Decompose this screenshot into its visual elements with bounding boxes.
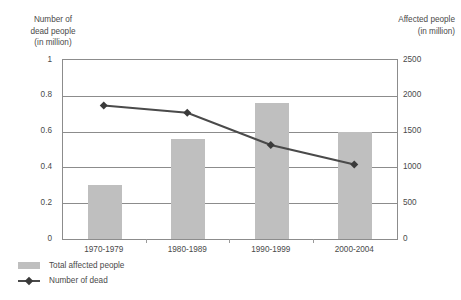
legend-item-number-of-dead: Number of dead [18, 273, 124, 288]
bar-1990-1999 [255, 103, 289, 239]
x-axis-label-1970-1979: 1970-1979 [62, 245, 146, 255]
left-axis-tick-label: 1 [0, 55, 52, 64]
bar-1980-1989 [171, 139, 205, 239]
x-axis-tick-mark [146, 239, 147, 243]
left-axis-tick-label: 0 [0, 234, 52, 243]
x-axis-tick-mark [313, 239, 314, 243]
left-axis-tick-label: 0.8 [0, 90, 52, 99]
left-axis-title-line1: Number of [14, 14, 92, 26]
right-axis-tick-label: 2000 [403, 90, 461, 99]
x-axis-label-2000-2004: 2000-2004 [312, 245, 396, 255]
left-axis-title: Number of dead people (in million) [14, 14, 92, 49]
x-axis-label-1990-1999: 1990-1999 [229, 245, 313, 255]
bar-swatch-icon [18, 262, 40, 269]
left-axis-title-line2: dead people [14, 26, 92, 38]
left-axis-tick-label: 0.4 [0, 162, 52, 171]
chart-legend: Total affected people Number of dead [18, 258, 124, 288]
left-axis-title-line3: (in million) [14, 37, 92, 49]
right-axis-title: Affected people (in million) [345, 14, 455, 37]
legend-item-total-affected-people: Total affected people [18, 258, 124, 273]
bar-2000-2004 [338, 132, 372, 239]
right-axis-title-line1: Affected people [345, 14, 455, 26]
right-axis-tick-label: 2500 [403, 55, 461, 64]
left-axis-tick-label: 0.2 [0, 198, 52, 207]
legend-label-number-of-dead: Number of dead [49, 276, 108, 285]
right-axis-tick-label: 500 [403, 198, 461, 207]
right-axis-tick-label: 1500 [403, 126, 461, 135]
legend-label-total-affected-people: Total affected people [49, 261, 124, 270]
gridline [63, 96, 397, 97]
line-diamond-icon [18, 276, 40, 285]
plot-area [62, 59, 398, 240]
x-axis-label-1980-1989: 1980-1989 [145, 245, 229, 255]
right-axis-tick-label: 0 [403, 234, 461, 243]
right-axis-title-line2: (in million) [345, 26, 455, 38]
x-axis-tick-mark [229, 239, 230, 243]
chart-container: Number of dead people (in million) Affec… [0, 0, 461, 300]
right-axis-tick-label: 1000 [403, 162, 461, 171]
bar-1970-1979 [88, 185, 122, 239]
left-axis-tick-label: 0.6 [0, 126, 52, 135]
